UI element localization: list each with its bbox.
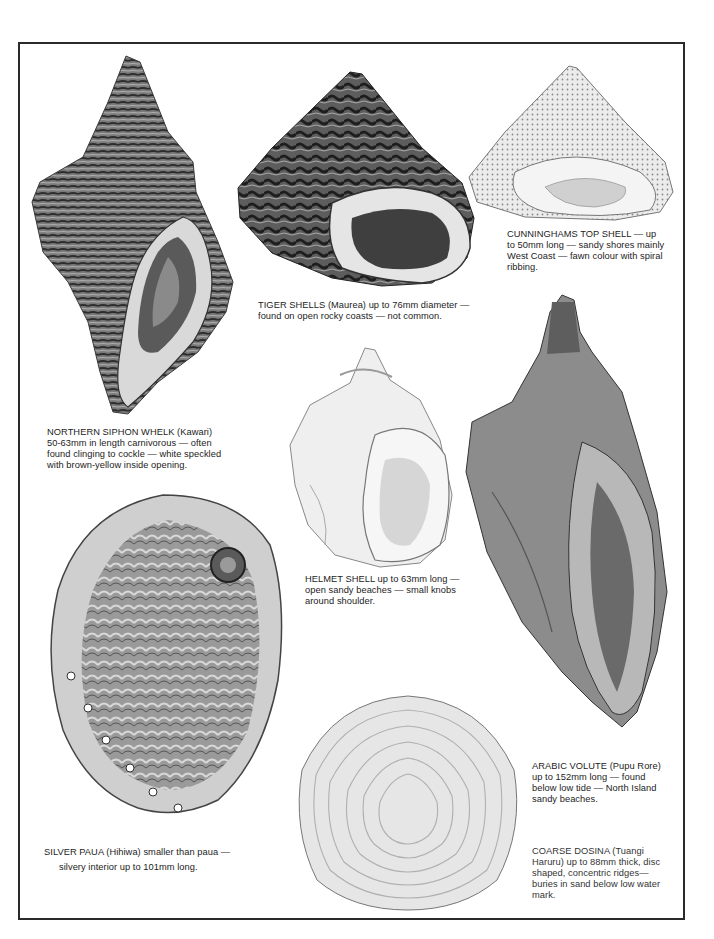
tiger-shell-illustration <box>232 68 480 296</box>
arabic-volute-illustration <box>462 292 672 732</box>
northern-siphon-whelk-illustration <box>28 52 238 422</box>
silver-paua-illustration <box>38 490 288 820</box>
cunninghams-top-shell-illustration <box>465 62 677 222</box>
helmet-shell-illustration <box>280 345 460 570</box>
coarse-dosina-illustration <box>292 690 524 912</box>
caption-cunninghams-top-shell: CUNNINGHAMS TOP SHELL — up to 50mm long … <box>507 229 664 273</box>
caption-silver-paua: SILVER PAUA (Hihiwa) smaller than paua —… <box>44 847 230 873</box>
caption-helmet-shell: HELMET SHELL up to 63mm long — open sand… <box>305 574 459 607</box>
caption-northern-siphon-whelk: NORTHERN SIPHON WHELK (Kawari) 50-63mm i… <box>47 427 221 471</box>
caption-coarse-dosina: COARSE DOSINA (Tuangi Haruru) up to 88mm… <box>532 846 660 901</box>
caption-arabic-volute: ARABIC VOLUTE (Pupu Rore) up to 152mm lo… <box>532 761 661 805</box>
caption-tiger-shells: TIGER SHELLS (Maurea) up to 76mm diamete… <box>258 300 469 322</box>
